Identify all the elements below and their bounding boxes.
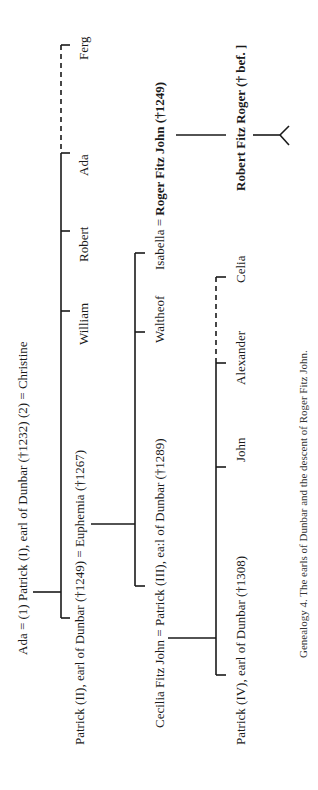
gen1-parents-label: Ada = (1) Patrick (I), earl of Dunbar (†…	[16, 341, 30, 655]
roger-fitz-john-label: Roger Fitz John (†1249)	[152, 82, 167, 216]
descent-robert-fitz-roger: Robert Fitz Roger († bef. ]	[234, 45, 248, 191]
gen2-child-patrick-iii: Cecilia Fitz John = Patrick (III), ea:l …	[153, 438, 167, 728]
isabella-label: Isabella =	[152, 216, 167, 270]
gen1-child-ferg: Ferg	[77, 36, 91, 60]
gen3-child-celia: Celia	[234, 256, 248, 283]
gen1-child-robert: Robert	[77, 227, 91, 262]
gen3-child-john: John	[234, 437, 248, 462]
gen2-child-isabella: Isabella = Roger Fitz John (†1249)	[153, 82, 167, 270]
figure-caption: Genealogy 4. The earls of Dunbar and the…	[296, 350, 310, 658]
gen3-child-alexander: Alexander	[234, 331, 248, 385]
gen1-child-patrick-ii: Patrick (II), earl of Dunbar (†1249) = E…	[73, 450, 87, 745]
gen3-child-patrick-iv: Patrick (IV), earl of Dunbar (†1308)	[234, 556, 248, 745]
gen1-child-william: William	[77, 303, 91, 345]
genealogy-page: Ada = (1) Patrick (I), earl of Dunbar (†…	[0, 0, 318, 790]
gen2-child-waltheof: Waltheof	[153, 296, 167, 343]
gen1-child-ada: Ada	[77, 154, 91, 176]
